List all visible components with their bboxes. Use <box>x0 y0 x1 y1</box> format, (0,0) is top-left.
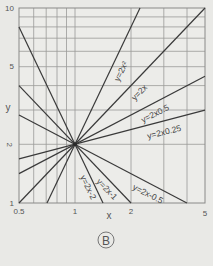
x-tick-5: 5 <box>203 209 208 218</box>
x-axis: 0.5 1 2 5 x <box>13 207 207 221</box>
intersection-point <box>73 142 77 146</box>
x-axis-label: x <box>107 210 112 221</box>
y-tick-5: 5 <box>10 62 15 71</box>
y-tick-2: 2 <box>5 143 14 148</box>
x-tick-2: 2 <box>129 207 134 216</box>
y-axis-label: y <box>6 102 11 113</box>
panel-badge: B <box>98 232 114 248</box>
log-log-chart: y=2x² y=2x y=2x0.5 y=2x0.25 y=2x-0.5 y=2… <box>0 0 213 266</box>
x-tick-1: 1 <box>73 207 78 216</box>
y-axis: 10 5 2 1 y <box>5 4 15 208</box>
y-tick-10: 10 <box>5 4 14 13</box>
panel-label: B <box>102 234 110 248</box>
x-tick-0.5: 0.5 <box>13 207 25 216</box>
